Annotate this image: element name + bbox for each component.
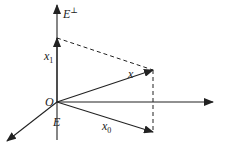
e-perp-label: E⊥: [62, 6, 78, 21]
e-label: E: [52, 115, 61, 129]
origin-label: O: [45, 95, 54, 109]
x-label: x: [127, 67, 134, 81]
dashed-projection-top: [57, 38, 153, 70]
x1-label: x1: [43, 49, 53, 65]
x-vector: [57, 70, 153, 102]
x0-label: x0: [101, 119, 111, 135]
projection-diagram: E⊥ x1 x O E x0: [0, 0, 225, 155]
